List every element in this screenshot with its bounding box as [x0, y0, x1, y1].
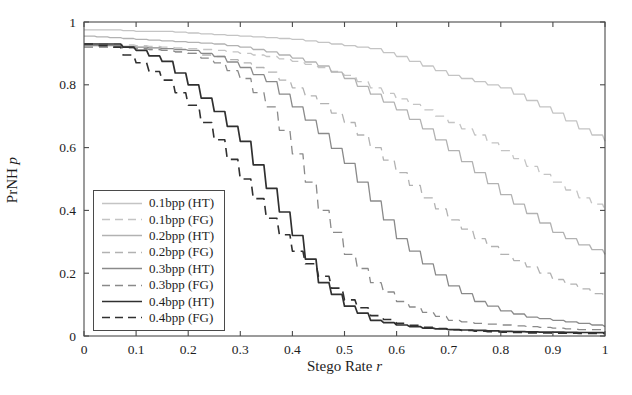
- y-axis-label-text: PrNH: [4, 168, 20, 203]
- legend-label: 0.3bpp (FG): [149, 277, 213, 293]
- y-tick-label: 0.6: [59, 140, 76, 155]
- legend-line-swatch: [101, 280, 143, 291]
- y-axis-label: PrNH p: [4, 110, 24, 250]
- y-tick-label: 0.4: [59, 203, 76, 218]
- y-tick-label: 0: [69, 329, 76, 344]
- chart-figure: 00.10.20.30.40.50.60.70.80.9100.20.40.60…: [0, 0, 632, 395]
- legend-item: 0.3bpp (HT): [101, 261, 214, 277]
- legend-item: 0.1bpp (FG): [101, 211, 214, 227]
- legend-label: 0.2bpp (FG): [149, 244, 213, 260]
- legend-line-swatch: [101, 263, 143, 274]
- legend-item: 0.2bpp (HT): [101, 228, 214, 244]
- y-axis-label-var: p: [4, 157, 20, 165]
- legend-item: 0.1bpp (HT): [101, 195, 214, 211]
- legend-item: 0.4bpp (HT): [101, 293, 214, 309]
- legend-line-swatch: [101, 214, 143, 225]
- x-tick-label: 0.8: [492, 342, 509, 357]
- legend-line-swatch: [101, 247, 143, 258]
- legend-line-swatch: [101, 312, 143, 323]
- x-tick-label: 0.5: [336, 342, 353, 357]
- x-axis-label-var: r: [376, 358, 382, 374]
- legend-line-swatch: [101, 230, 143, 241]
- legend-label: 0.4bpp (FG): [149, 310, 213, 326]
- y-tick-label: 0.8: [59, 77, 76, 92]
- legend-item: 0.2bpp (FG): [101, 244, 214, 260]
- x-tick-label: 0.7: [440, 342, 457, 357]
- x-tick-label: 0.2: [180, 342, 197, 357]
- x-tick-label: 0.4: [284, 342, 301, 357]
- legend-line-swatch: [101, 296, 143, 307]
- x-tick-label: 0: [81, 342, 88, 357]
- legend-label: 0.1bpp (HT): [149, 195, 214, 211]
- x-axis-label: Stego Rate r: [84, 358, 605, 375]
- legend-line-swatch: [101, 198, 143, 209]
- x-tick-label: 0.1: [128, 342, 145, 357]
- x-tick-label: 0.9: [544, 342, 561, 357]
- y-tick-label: 1: [69, 15, 76, 30]
- x-tick-label: 0.3: [232, 342, 249, 357]
- x-axis-label-text: Stego Rate: [307, 358, 372, 374]
- legend-label: 0.2bpp (HT): [149, 228, 214, 244]
- x-tick-label: 0.6: [388, 342, 405, 357]
- legend-item: 0.3bpp (FG): [101, 277, 214, 293]
- x-tick-label: 1: [602, 342, 609, 357]
- y-tick-label: 0.2: [59, 266, 76, 281]
- series-0.1bpp (FG): [84, 44, 605, 210]
- legend-label: 0.1bpp (FG): [149, 212, 213, 228]
- legend-item: 0.4bpp (FG): [101, 310, 214, 326]
- legend-label: 0.4bpp (HT): [149, 294, 214, 310]
- legend-label: 0.3bpp (HT): [149, 261, 214, 277]
- legend-box: 0.1bpp (HT)0.1bpp (FG)0.2bpp (HT)0.2bpp …: [93, 190, 225, 331]
